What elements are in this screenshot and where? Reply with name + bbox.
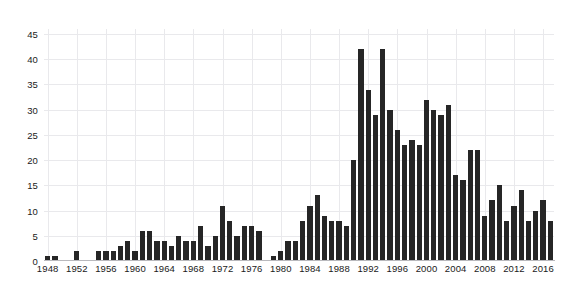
bar <box>256 231 261 261</box>
bar <box>548 221 553 261</box>
y-axis: 051015202530354045 <box>0 29 38 261</box>
bar <box>417 145 422 261</box>
bar <box>387 110 392 261</box>
bar <box>358 49 363 261</box>
bar <box>351 160 356 261</box>
bar <box>366 90 371 261</box>
x-axis-tick-label: 1964 <box>153 263 175 274</box>
bar <box>526 221 531 261</box>
x-axis-tick-label: 2008 <box>474 263 496 274</box>
bar <box>511 206 516 261</box>
bar <box>431 110 436 261</box>
bar <box>118 246 123 261</box>
x-axis-tick-label: 1956 <box>95 263 117 274</box>
plot-area <box>44 29 554 261</box>
bar <box>285 241 290 261</box>
y-axis-tick-label: 35 <box>27 79 38 90</box>
bar <box>475 150 480 261</box>
bar <box>249 226 254 261</box>
x-axis-tick-label: 2004 <box>445 263 467 274</box>
bars-layer <box>44 29 554 261</box>
y-axis-tick-label: 25 <box>27 129 38 140</box>
x-axis-tick-label: 1984 <box>299 263 321 274</box>
bar <box>242 226 247 261</box>
bar <box>322 216 327 261</box>
bar <box>438 115 443 261</box>
bar <box>373 115 378 261</box>
x-axis-tick-label: 1988 <box>328 263 350 274</box>
bar <box>183 241 188 261</box>
bar <box>497 185 502 261</box>
bar <box>453 175 458 261</box>
x-axis: 1948195219561960196419681972197619801984… <box>44 263 554 283</box>
x-axis-tick-label: 1980 <box>270 263 292 274</box>
bar <box>176 236 181 261</box>
x-axis-tick-label: 1948 <box>37 263 59 274</box>
y-axis-tick-label: 10 <box>27 205 38 216</box>
y-axis-tick-label: 45 <box>27 29 38 40</box>
y-axis-tick-label: 40 <box>27 54 38 65</box>
y-axis-tick-label: 30 <box>27 104 38 115</box>
bar <box>169 246 174 261</box>
bar <box>191 241 196 261</box>
y-axis-tick-label: 5 <box>33 230 38 241</box>
bar-chart: 051015202530354045 194819521956196019641… <box>0 0 565 292</box>
bar <box>344 226 349 261</box>
bar <box>336 221 341 261</box>
bar <box>409 140 414 261</box>
bar <box>489 200 494 261</box>
x-axis-tick-label: 2000 <box>416 263 438 274</box>
bar <box>446 105 451 261</box>
bar <box>519 190 524 261</box>
bar <box>147 231 152 261</box>
y-axis-tick-label: 20 <box>27 155 38 166</box>
x-axis-line <box>44 260 555 261</box>
bar <box>162 241 167 261</box>
bar <box>293 241 298 261</box>
bar <box>198 226 203 261</box>
bar <box>140 231 145 261</box>
x-axis-tick-label: 1960 <box>124 263 146 274</box>
bar <box>482 216 487 261</box>
x-axis-tick-label: 1976 <box>241 263 263 274</box>
bar <box>307 206 312 261</box>
x-axis-tick-label: 1968 <box>183 263 205 274</box>
bar <box>125 241 130 261</box>
bar <box>540 200 545 261</box>
bar <box>504 221 509 261</box>
x-axis-tick-label: 1992 <box>357 263 379 274</box>
x-axis-tick-label: 1972 <box>212 263 234 274</box>
bar <box>234 236 239 261</box>
bar <box>205 246 210 261</box>
bar <box>380 49 385 261</box>
x-axis-tick-label: 1996 <box>387 263 409 274</box>
bar <box>533 211 538 261</box>
bar <box>227 221 232 261</box>
bar <box>424 100 429 261</box>
y-axis-tick-label: 15 <box>27 180 38 191</box>
x-axis-tick-label: 1952 <box>66 263 88 274</box>
bar <box>300 221 305 261</box>
bar <box>315 195 320 261</box>
bar <box>402 145 407 261</box>
bar <box>154 241 159 261</box>
bar <box>460 180 465 261</box>
bar <box>468 150 473 261</box>
bar <box>329 221 334 261</box>
x-axis-tick-label: 2012 <box>503 263 525 274</box>
bar <box>213 236 218 261</box>
bar <box>395 130 400 261</box>
bar <box>220 206 225 261</box>
x-axis-tick-label: 2016 <box>532 263 554 274</box>
